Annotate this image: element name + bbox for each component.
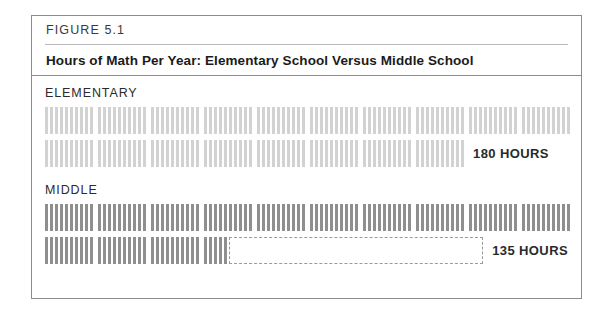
tally-tick xyxy=(224,237,227,264)
tally-tick xyxy=(335,107,338,134)
tally-tick xyxy=(171,204,174,231)
tally-tick xyxy=(103,140,106,167)
tally-tick xyxy=(151,140,154,167)
tally-tick xyxy=(239,140,242,167)
tally-tick xyxy=(55,204,58,231)
tally-tick xyxy=(98,237,101,264)
tally-tick xyxy=(547,204,550,231)
tally-tick xyxy=(234,204,237,231)
tally-tick xyxy=(315,204,318,231)
tally-tick xyxy=(461,140,464,167)
tally-tick xyxy=(161,237,164,264)
tally-group xyxy=(257,140,305,167)
tally-tick xyxy=(315,140,318,167)
tally-tick xyxy=(98,140,101,167)
tally-tick xyxy=(85,204,88,231)
tally-tick xyxy=(378,140,381,167)
tally-tick xyxy=(143,204,146,231)
tally-tick xyxy=(80,107,83,134)
tally-tick xyxy=(171,237,174,264)
tally-tick xyxy=(75,204,78,231)
tally-tick xyxy=(416,140,419,167)
tally-tick xyxy=(514,204,517,231)
tally-tick xyxy=(171,140,174,167)
tally-tick xyxy=(325,107,328,134)
tally-tick xyxy=(398,107,401,134)
tally-tick xyxy=(403,140,406,167)
tally-tick xyxy=(302,140,305,167)
tally-tick xyxy=(103,204,106,231)
table-row xyxy=(45,204,568,231)
tally-tick xyxy=(249,204,252,231)
tally-tick xyxy=(421,140,424,167)
tally-tick xyxy=(262,204,265,231)
tally-tick xyxy=(249,140,252,167)
tally-tick xyxy=(383,204,386,231)
tally-tick xyxy=(161,107,164,134)
tally-tick xyxy=(479,204,482,231)
tally-tick xyxy=(176,237,179,264)
tally-tick xyxy=(302,204,305,231)
tally-tick xyxy=(527,107,530,134)
tally-group xyxy=(310,204,358,231)
tally-tick xyxy=(287,107,290,134)
tally-tick xyxy=(214,237,217,264)
tally-tick xyxy=(436,107,439,134)
tally-tick xyxy=(90,204,93,231)
tally-tick xyxy=(151,204,154,231)
tally-tick xyxy=(191,107,194,134)
tally-tick xyxy=(272,107,275,134)
tally-tick xyxy=(292,140,295,167)
tally-tick xyxy=(133,204,136,231)
tally-tick xyxy=(60,204,63,231)
tally-tick xyxy=(257,107,260,134)
tally-tick xyxy=(547,107,550,134)
tally-tick xyxy=(65,204,68,231)
tally-tick xyxy=(461,204,464,231)
tally-tick xyxy=(50,204,53,231)
tally-tick xyxy=(262,140,265,167)
tally-tick xyxy=(277,204,280,231)
tally-tick xyxy=(388,107,391,134)
tally-tick xyxy=(292,107,295,134)
tally-tick xyxy=(204,140,207,167)
tally-tick xyxy=(474,107,477,134)
tally-tick xyxy=(393,140,396,167)
tally-tick xyxy=(297,204,300,231)
tally-tick xyxy=(90,107,93,134)
tally-tick xyxy=(90,237,93,264)
page-title: Hours of Math Per Year: Elementary Schoo… xyxy=(46,53,474,68)
tally-group xyxy=(363,140,411,167)
tally-tick xyxy=(320,107,323,134)
tally-tick xyxy=(383,107,386,134)
tally-tick xyxy=(138,107,141,134)
tally-tick xyxy=(426,204,429,231)
tally-tick xyxy=(310,204,313,231)
tally-tick xyxy=(55,140,58,167)
tally-tick xyxy=(50,237,53,264)
tally-tick xyxy=(350,107,353,134)
tally-tick xyxy=(45,237,48,264)
tally-tick xyxy=(234,107,237,134)
tally-tick xyxy=(161,140,164,167)
tally-tick xyxy=(509,107,512,134)
tally-tick xyxy=(176,107,179,134)
tally-tick xyxy=(103,107,106,134)
tally-tick xyxy=(219,237,222,264)
tally-tick xyxy=(499,204,502,231)
tally-tick xyxy=(138,237,141,264)
tally-tick xyxy=(277,107,280,134)
tally-tick xyxy=(70,140,73,167)
tally-group xyxy=(416,107,464,134)
tally-tick xyxy=(393,107,396,134)
tally-tick xyxy=(320,204,323,231)
tally-tick xyxy=(310,140,313,167)
figure-frame: FIGURE 5.1 Hours of Math Per Year: Eleme… xyxy=(31,15,582,299)
tally-tick xyxy=(118,107,121,134)
tally-tick xyxy=(196,140,199,167)
tally-tick xyxy=(363,140,366,167)
tally-tick xyxy=(469,107,472,134)
tally-tick xyxy=(143,140,146,167)
tally-tick xyxy=(70,237,73,264)
tally-tick xyxy=(363,107,366,134)
